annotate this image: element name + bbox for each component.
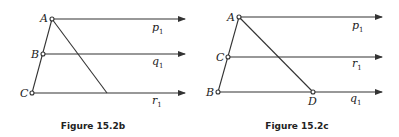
point-b (41, 52, 45, 56)
label-p1: p1 (352, 19, 364, 34)
point-d (311, 90, 315, 94)
caption-15-2c: Figure 15.2c (265, 121, 328, 131)
label-r1: r1 (152, 94, 162, 109)
caption-15-2b: Figure 15.2b (61, 121, 126, 131)
label-r1: r1 (352, 57, 362, 72)
label-a: A (39, 12, 48, 25)
label-b: B (205, 86, 214, 99)
transversal-from-a (52, 19, 107, 93)
point-b (216, 90, 220, 94)
label-d: D (307, 95, 317, 108)
label-q1: q1 (350, 92, 362, 107)
label-b: B (30, 48, 39, 61)
point-c (30, 91, 34, 95)
point-a (50, 17, 54, 21)
label-c: C (20, 87, 29, 100)
label-a: A (226, 11, 235, 24)
point-a (237, 15, 241, 19)
geometry-figures: A B C p1 q1 r1 Figure 15.2b A C B D p1 r… (0, 0, 399, 137)
segment-ad (239, 17, 313, 92)
label-p1: p1 (152, 21, 164, 36)
label-q1: q1 (152, 55, 164, 70)
label-c: C (216, 51, 225, 64)
point-c (226, 55, 230, 59)
